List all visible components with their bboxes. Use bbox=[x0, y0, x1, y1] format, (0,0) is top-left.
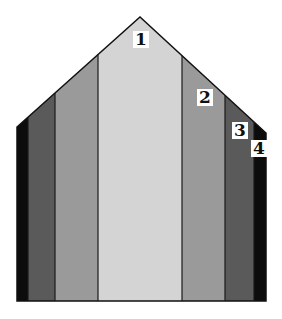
stripe-outer-left bbox=[17, 0, 28, 302]
zone-label-1: 1 bbox=[133, 31, 149, 48]
zone-label-2: 2 bbox=[197, 89, 213, 106]
zone-label-3: 3 bbox=[232, 122, 248, 139]
stripe-zone-2-left bbox=[55, 0, 98, 302]
stripe-zone-2-right bbox=[182, 0, 225, 302]
stripe-zone-3-left bbox=[28, 0, 55, 302]
zone-label-4: 4 bbox=[251, 140, 267, 157]
stripe-zone-3-right bbox=[225, 0, 254, 302]
